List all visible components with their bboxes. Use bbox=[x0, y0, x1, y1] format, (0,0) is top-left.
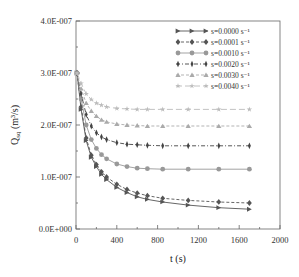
x-tick-label: 2000 bbox=[272, 235, 289, 245]
legend-label: s=0.0000 s⁻¹ bbox=[211, 27, 250, 36]
legend-label: s=0.0040 s⁻¹ bbox=[211, 82, 250, 91]
y-tick-label: 0.0E+000 bbox=[39, 224, 72, 234]
legend-label: s=0.0030 s⁻¹ bbox=[211, 71, 250, 80]
y-tick-label: 3.0E-007 bbox=[41, 68, 72, 78]
x-tick-label: 800 bbox=[151, 235, 164, 245]
legend-label: s=0.0010 s⁻¹ bbox=[211, 49, 250, 58]
legend-label: s=0.0020 s⁻¹ bbox=[211, 60, 250, 69]
y-tick-label: 2.0E-007 bbox=[41, 120, 72, 130]
y-tick-label: 1.0E-007 bbox=[41, 172, 72, 182]
legend-label: s=0.0001 s⁻¹ bbox=[211, 38, 250, 47]
x-tick-label: 1200 bbox=[190, 235, 207, 245]
x-tick-label: 400 bbox=[110, 235, 123, 245]
x-tick-label: 1600 bbox=[231, 235, 248, 245]
y-tick-label: 4.0E-007 bbox=[41, 16, 72, 26]
x-tick-label: 0 bbox=[74, 235, 78, 245]
chart: 0.0E+0001.0E-0072.0E-0073.0E-0074.0E-007… bbox=[0, 0, 299, 277]
x-axis-title: t (s) bbox=[170, 253, 186, 265]
